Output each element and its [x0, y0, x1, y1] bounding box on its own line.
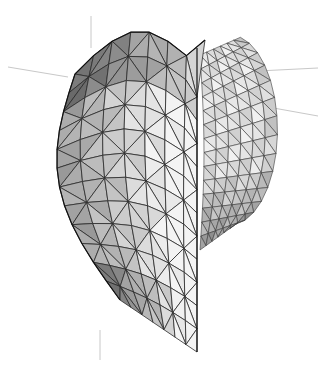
mesh-facet [245, 212, 254, 220]
mesh-right-lobe [200, 37, 277, 250]
axis-left [8, 67, 68, 77]
mesh-viewport[interactable] [0, 0, 325, 368]
mesh-main-body [57, 32, 205, 352]
